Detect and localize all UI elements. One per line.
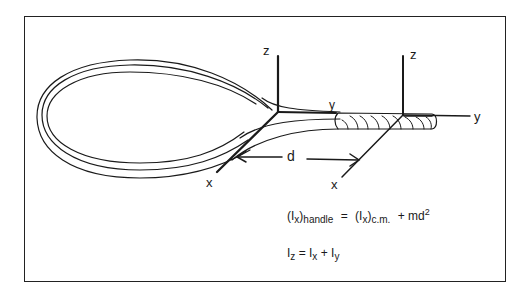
distance-label: d bbox=[287, 149, 295, 163]
racket-head-outer bbox=[37, 60, 272, 178]
eq2-plus-I: + I bbox=[317, 246, 334, 260]
eq2-equals-I: = I bbox=[295, 246, 312, 260]
diagram-canvas: z y x z y x d (Ix)handle = (Ix)c.m. + md… bbox=[0, 0, 525, 295]
y-axis-cm bbox=[278, 112, 336, 113]
parallel-axis-equation: (Ix)handle = (Ix)c.m. + md2 bbox=[287, 208, 430, 225]
y-label-handle: y bbox=[474, 110, 481, 123]
eq2-sub-y: y bbox=[334, 251, 339, 262]
x-label-cm: x bbox=[206, 176, 213, 189]
y-axis-handle bbox=[403, 115, 470, 116]
eq1-sup-2: 2 bbox=[425, 207, 430, 217]
perpendicular-axis-equation: Iz = Ix + Iy bbox=[287, 247, 339, 262]
eq1-sub-handle: handle bbox=[303, 214, 333, 225]
x-label-handle: x bbox=[331, 178, 338, 191]
grip-hatching bbox=[342, 116, 431, 129]
distance-arrow bbox=[237, 151, 359, 166]
axes-cm bbox=[217, 56, 336, 172]
x-axis-cm bbox=[217, 112, 278, 172]
y-label-cm: y bbox=[329, 99, 335, 111]
z-label-handle: z bbox=[410, 48, 417, 61]
eq1-plus-md: + md bbox=[394, 209, 424, 223]
z-label-cm: z bbox=[263, 44, 270, 57]
eq1-sub-cm: c.m. bbox=[371, 214, 390, 225]
eq1-equals: = bbox=[337, 209, 351, 223]
racket-head-inner bbox=[47, 72, 256, 163]
x-axis-handle bbox=[342, 115, 403, 177]
